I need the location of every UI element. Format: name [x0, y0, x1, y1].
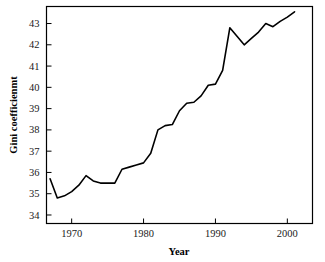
y-tick-label: 34	[29, 210, 40, 221]
gini-coefficient-line-chart: 34353637383940414243 1970198019902000 Ye…	[0, 0, 325, 262]
y-tick-label: 37	[29, 146, 40, 157]
y-tick-label: 40	[29, 82, 40, 93]
x-tick-label: 2000	[277, 228, 298, 239]
y-tick-label: 41	[29, 61, 40, 72]
y-axis-title: Gini coefficienmt	[8, 76, 19, 154]
x-tick-label: 1970	[61, 228, 82, 239]
y-tick-label: 43	[29, 18, 40, 29]
y-tick-label: 38	[29, 124, 40, 135]
chart-background	[0, 0, 325, 262]
chart-figure: 34353637383940414243 1970198019902000 Ye…	[0, 0, 325, 262]
y-tick-label: 42	[29, 39, 40, 50]
y-tick-label: 39	[29, 103, 40, 114]
x-tick-label: 1990	[205, 228, 226, 239]
y-tick-label: 36	[29, 167, 40, 178]
x-axis-title: Year	[169, 246, 190, 257]
x-tick-label: 1980	[133, 228, 154, 239]
y-tick-label: 35	[29, 188, 40, 199]
